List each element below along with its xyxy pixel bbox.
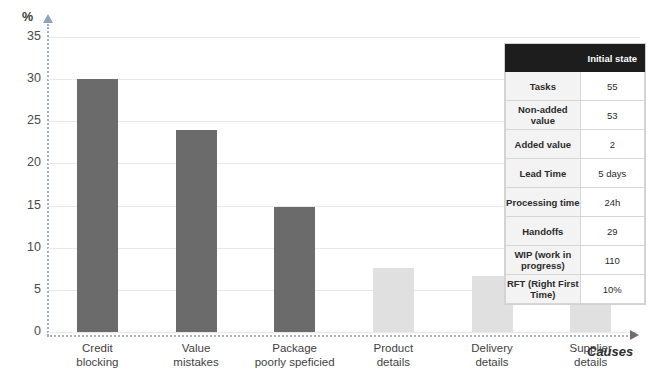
bar: [373, 268, 414, 332]
chart-page: % 05101520253035 CreditblockingValuemist…: [0, 0, 659, 376]
table-header: Initial state: [506, 45, 645, 72]
table-row-value: 29: [580, 217, 644, 246]
table-header-blank: [506, 45, 581, 72]
table-row-value: 55: [580, 72, 644, 101]
x-axis-arrow-icon: [630, 330, 639, 340]
initial-state-table: Initial state Tasks55Non-added value53Ad…: [505, 44, 645, 304]
table-row: Lead Time5 days: [506, 159, 645, 188]
table-row-label: RFT (Right First Time): [506, 275, 581, 304]
table-row-label: Non-added value: [506, 101, 581, 130]
y-axis-ticks: 05101520253035: [0, 20, 41, 332]
table-header-initial-state: Initial state: [580, 45, 644, 72]
table-row-value: 10%: [580, 275, 644, 304]
y-axis-tick-label: 0: [1, 325, 41, 338]
y-axis-tick-label: 10: [1, 241, 41, 254]
y-axis-tick-label: 30: [1, 72, 41, 85]
x-axis-labels: CreditblockingValuemistakesPackagepoorly…: [48, 341, 640, 375]
table-row-label: WIP (work in progress): [506, 246, 581, 275]
bar: [176, 130, 217, 332]
gridline: [48, 332, 640, 333]
table-row-value: 5 days: [580, 159, 644, 188]
bar: [77, 79, 118, 332]
y-axis-tick-label: 15: [1, 199, 41, 212]
table-body: Tasks55Non-added value53Added value2Lead…: [506, 72, 645, 304]
table-row-value: 2: [580, 130, 644, 159]
table-row-value: 24h: [580, 188, 644, 217]
table-row-label: Processing time: [506, 188, 581, 217]
table-row-label: Added value: [506, 130, 581, 159]
table-row: Tasks55: [506, 72, 645, 101]
table-row: WIP (work in progress)110: [506, 246, 645, 275]
bar: [274, 207, 315, 332]
y-axis-tick-label: 35: [1, 30, 41, 43]
table-row-label: Lead Time: [506, 159, 581, 188]
table-row-label: Tasks: [506, 72, 581, 101]
table-row: Non-added value53: [506, 101, 645, 130]
bar-chart: % 05101520253035 CreditblockingValuemist…: [0, 0, 500, 376]
table-row-value: 53: [580, 101, 644, 130]
table-header-row: Initial state: [506, 45, 645, 72]
table-row: RFT (Right First Time)10%: [506, 275, 645, 304]
y-axis-tick-label: 25: [1, 114, 41, 127]
table-row: Processing time24h: [506, 188, 645, 217]
y-axis-tick-label: 5: [1, 283, 41, 296]
table-row-label: Handoffs: [506, 217, 581, 246]
x-axis-line: [47, 335, 632, 337]
table-row: Added value2: [506, 130, 645, 159]
table-row-value: 110: [580, 246, 644, 275]
y-axis-tick-label: 20: [1, 156, 41, 169]
table-row: Handoffs29: [506, 217, 645, 246]
x-axis-title: Causes: [587, 344, 633, 359]
